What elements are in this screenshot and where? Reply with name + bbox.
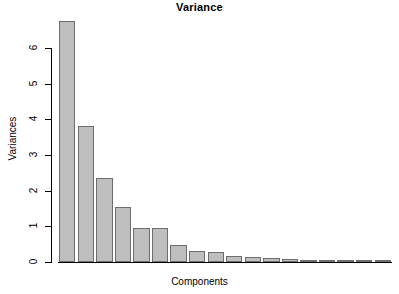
bar xyxy=(375,260,391,262)
y-tick-1 xyxy=(45,226,51,227)
bar xyxy=(226,256,242,262)
y-tick-label-4: 4 xyxy=(28,108,39,130)
bar xyxy=(282,259,298,262)
bar xyxy=(115,207,131,262)
bar xyxy=(78,126,94,262)
bar xyxy=(245,257,261,262)
bar xyxy=(208,252,224,262)
bar xyxy=(337,260,353,262)
y-tick-label-0: 0 xyxy=(28,251,39,273)
x-axis-line xyxy=(58,262,392,263)
y-tick-label-2: 2 xyxy=(28,179,39,201)
bar xyxy=(356,260,372,262)
y-tick-4 xyxy=(45,119,51,120)
bar xyxy=(152,228,168,262)
y-axis-line xyxy=(51,48,52,263)
bar xyxy=(189,251,205,262)
y-tick-5 xyxy=(45,84,51,85)
bar xyxy=(59,21,75,262)
chart-title: Variance xyxy=(0,1,399,13)
y-tick-6 xyxy=(45,48,51,49)
y-tick-label-6: 6 xyxy=(28,37,39,59)
x-axis-label: Components xyxy=(0,276,399,287)
y-axis-label: Variances xyxy=(7,89,18,189)
y-tick-0 xyxy=(45,262,51,263)
bar xyxy=(300,260,316,262)
bar xyxy=(319,260,335,262)
bar xyxy=(170,245,186,262)
y-tick-2 xyxy=(45,191,51,192)
y-tick-3 xyxy=(45,155,51,156)
y-tick-label-5: 5 xyxy=(28,72,39,94)
scree-plot-figure: Variance Variances 0123456 Components xyxy=(0,0,399,294)
bar-series xyxy=(58,14,392,262)
bar xyxy=(133,228,149,262)
bar xyxy=(96,178,112,262)
bar xyxy=(263,258,279,262)
y-tick-label-3: 3 xyxy=(28,144,39,166)
y-tick-label-1: 1 xyxy=(28,215,39,237)
